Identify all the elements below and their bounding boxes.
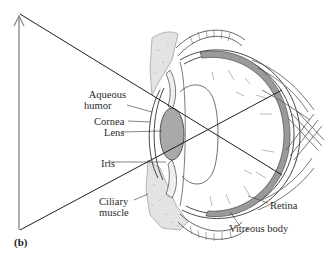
- aqueous-humor-line2: humor: [84, 100, 126, 111]
- eye-diagram: Aqueous humor Cornea Lens Iris Ciliary m…: [0, 0, 330, 260]
- panel-label: (b): [14, 236, 27, 248]
- aqueous-humor-line1: Aqueous: [84, 89, 126, 100]
- ciliary-muscle-line2: muscle: [99, 207, 129, 218]
- ciliary-muscle-line1: Ciliary: [99, 196, 129, 207]
- label-lens: Lens: [104, 127, 124, 138]
- lens: [160, 108, 184, 160]
- object-arrow: [14, 16, 24, 230]
- label-vitreous-body: Vitreous body: [229, 223, 288, 234]
- label-aqueous-humor: Aqueous humor: [84, 89, 126, 111]
- label-ciliary-muscle: Ciliary muscle: [99, 196, 129, 218]
- label-retina: Retina: [270, 200, 297, 211]
- label-cornea: Cornea: [94, 116, 124, 127]
- sclera: [180, 50, 300, 219]
- label-iris: Iris: [101, 158, 115, 169]
